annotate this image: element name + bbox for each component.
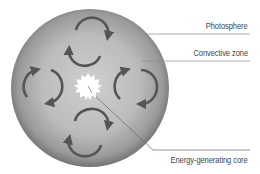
core-label: Energy-generating core [171, 155, 248, 165]
convective-zone-label: Convective zone [193, 48, 248, 58]
photosphere-label: Photosphere [206, 21, 248, 31]
